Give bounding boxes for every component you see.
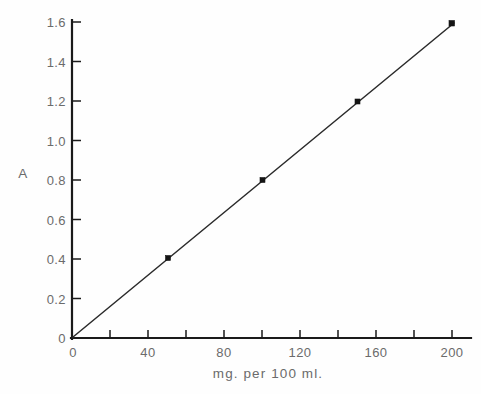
data-point-marker — [166, 256, 171, 261]
y-tick-label: 1.4 — [47, 55, 66, 70]
y-tick-label: 1.6 — [47, 15, 66, 30]
x-tick-label: 160 — [365, 345, 388, 360]
y-tick-label: 0.4 — [47, 252, 66, 267]
y-axis-ticks — [72, 22, 81, 299]
data-point-marker — [355, 99, 360, 104]
y-axis-tick-labels: 1.6 1.4 1.2 1.0 0.8 0.6 0.4 0.2 0 — [47, 15, 66, 346]
x-tick-label: 120 — [289, 345, 312, 360]
y-tick-label: 1.2 — [47, 94, 66, 109]
x-tick-label: 80 — [216, 345, 231, 360]
x-tick-label: 40 — [140, 345, 155, 360]
y-axis-title: A — [18, 166, 28, 181]
data-series-a — [73, 21, 455, 338]
y-tick-label: 1.0 — [47, 134, 66, 149]
data-point-marker — [449, 21, 455, 27]
chart-figure: A mg. per 100 ml. 1.6 1.4 1.2 1.0 0.8 0.… — [0, 0, 481, 394]
x-axis-ticks — [110, 330, 452, 338]
chart-plot-area: A mg. per 100 ml. 1.6 1.4 1.2 1.0 0.8 0.… — [0, 0, 481, 394]
y-tick-label: 0.8 — [47, 173, 66, 188]
x-axis-title: mg. per 100 ml. — [213, 366, 323, 381]
y-tick-label: 0 — [58, 331, 66, 346]
x-tick-label: 200 — [441, 345, 464, 360]
y-tick-label: 0.2 — [47, 292, 66, 307]
data-point-marker — [260, 178, 265, 183]
x-axis-tick-labels: 0 40 80 120 160 200 — [69, 345, 463, 360]
x-tick-label: 0 — [69, 345, 77, 360]
y-tick-label: 0.6 — [47, 213, 66, 228]
